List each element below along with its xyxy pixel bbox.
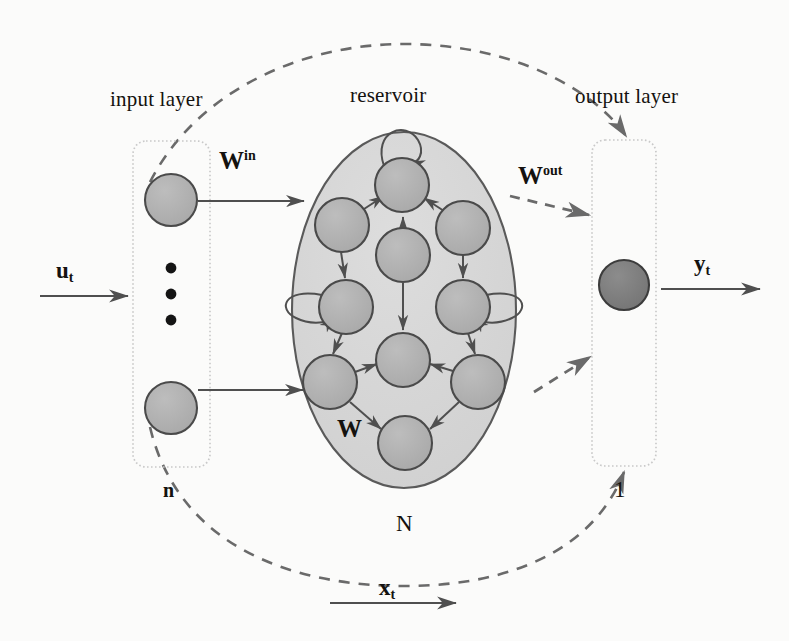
w-in-label: Win (219, 148, 256, 173)
reservoir-node (375, 158, 429, 212)
reservoir-label: reservoir (350, 85, 426, 106)
state-signal-base: x (379, 575, 391, 600)
output-signal-label: yt (694, 252, 710, 275)
reservoir-node (376, 228, 430, 282)
input-layer-label: input layer (110, 89, 203, 110)
w-in-label-base: W (219, 147, 244, 174)
input-node (145, 382, 197, 434)
reservoir-node (451, 355, 505, 409)
reservoir-count-label: N (396, 512, 413, 535)
reservoir-node (315, 198, 369, 252)
input-count-label: n (163, 480, 174, 500)
input-node (145, 174, 197, 226)
w-recurrent-label: W (337, 416, 362, 441)
reservoir-node (319, 280, 373, 334)
reservoir-node (436, 201, 490, 255)
reservoir-node (436, 280, 490, 334)
output-signal-base: y (694, 251, 706, 276)
reservoir-node (378, 416, 432, 470)
output-node (599, 260, 649, 310)
output-layer-label: output layer (575, 86, 678, 107)
figure-canvas: input layer reservoir output layer Win W… (0, 0, 789, 641)
input-signal-subscript: t (69, 270, 74, 285)
reservoir-node (303, 355, 357, 409)
w-out-label: Wout (518, 163, 562, 188)
reservoir-node (376, 333, 430, 387)
input-signal-label: ut (56, 259, 73, 282)
state-signal-subscript: t (391, 587, 396, 602)
output-count-label: 1 (614, 478, 626, 501)
vertical-ellipsis-dot (166, 315, 177, 326)
w-in-label-superscript: in (244, 148, 256, 163)
input-signal-base: u (56, 258, 69, 283)
vertical-ellipsis-dot (166, 289, 177, 300)
state-signal-label: xt (379, 576, 395, 599)
output-signal-subscript: t (706, 263, 711, 278)
output-node-group (599, 260, 649, 310)
vertical-ellipsis-dot (166, 263, 177, 274)
w-out-label-superscript: out (543, 163, 562, 178)
w-out-label-base: W (518, 162, 543, 189)
